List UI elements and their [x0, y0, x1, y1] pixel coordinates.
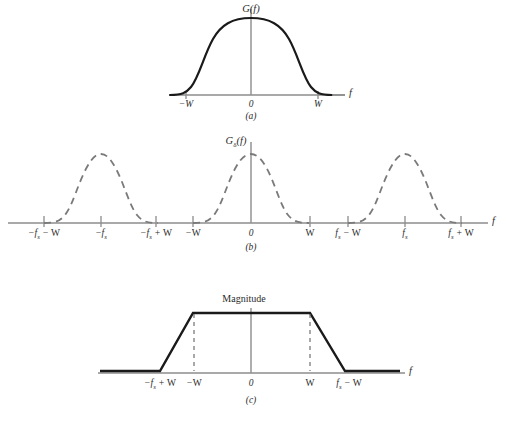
panel-a-caption: (a) — [245, 112, 256, 122]
panel-b-caption: (b) — [245, 243, 256, 253]
panel-b-tick-neg-fs-minus-w-label: −fs − W — [28, 229, 60, 241]
panel-b-tick-zero-label: 0 — [249, 229, 254, 239]
panel-a-tick-pos-w-label: W — [314, 100, 322, 110]
panel-b-plot — [0, 128, 508, 280]
panel-c-caption: (c) — [246, 396, 257, 406]
spectrum-replica-right — [348, 154, 462, 223]
panel-a-tick-zero-label: 0 — [249, 100, 254, 110]
panel-a-curve-label: G(f) — [242, 4, 260, 15]
panel-b-curve-label: Gδ(f) — [226, 136, 247, 149]
panel-c-curve-label: Magnitude — [222, 294, 265, 304]
panel-c-tick-pos-w-label: W — [306, 379, 315, 389]
filter-response-curve — [100, 313, 400, 371]
panel-b-tick-fs-minus-w-label: fs − W — [335, 229, 360, 241]
panel-a-axis-label: f — [349, 88, 352, 99]
panel-b-tick-neg-fs-label: −fs — [95, 229, 107, 241]
panel-b-tick-pos-w-label: W — [306, 229, 315, 239]
panel-b-tick-neg-fs-plus-w-label: −fs + W — [140, 229, 172, 241]
panel-b-axis-label: f — [492, 216, 495, 227]
panel-b-tick-neg-w-label: −W — [185, 229, 200, 239]
panel-a-plot — [0, 0, 508, 128]
panel-c-tick-zero-label: 0 — [249, 379, 254, 389]
figure-container: G(f) −W 0 W f (a) — [0, 0, 508, 428]
panel-c-tick-neg-fs-plus-w-label: −fs + W — [144, 379, 176, 391]
panel-a-tick-neg-w-label: −W — [179, 100, 193, 110]
panel-c-axis-label: f — [409, 366, 412, 377]
panel-c-tick-fs-minus-w-label: fs − W — [336, 379, 361, 391]
spectrum-replica-left — [44, 154, 158, 223]
panel-b: Gδ(f) −fs − W −fs −fs + W −W 0 W fs − W … — [0, 128, 508, 280]
panel-c-tick-neg-w-label: −W — [186, 379, 201, 389]
panel-b-tick-fs-label: fs — [402, 229, 407, 241]
panel-b-tick-fs-plus-w-label: fs + W — [448, 229, 473, 241]
panel-c: Magnitude −fs + W −W 0 W fs − W f (c) — [0, 280, 508, 428]
panel-a: G(f) −W 0 W f (a) — [0, 0, 508, 128]
